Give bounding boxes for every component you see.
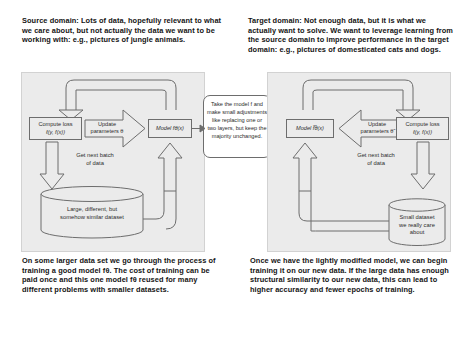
source-next-batch-arrow <box>40 142 64 190</box>
target-compute-loss-box: Compute loss ℓ(y, f(x)) <box>396 117 449 140</box>
target-dataset-cylinder: Small dataset we really care about <box>388 198 446 246</box>
source-next-batch-label: Get next batch of data <box>64 152 126 167</box>
target-dataset-label: Small dataset we really care about <box>390 214 444 237</box>
target-update-label-2: parameters θ̃ <box>361 128 394 134</box>
target-update-label-1: Update <box>368 121 386 127</box>
source-domain-footer: On some larger data set we go through th… <box>22 256 226 294</box>
source-to-callout-arrow <box>192 124 206 133</box>
target-update-parameters-arrow: Update parameters θ̃ <box>338 110 399 147</box>
source-dataset-label: Large, different, but somehow similar da… <box>46 206 138 221</box>
target-model-label: Model f̃θ̃(x) <box>296 125 324 132</box>
source-dataset-to-model-arrow <box>158 143 182 191</box>
source-loss-label-2: ℓ(y, f(x)) <box>46 129 65 136</box>
source-update-label-2: parameters θ <box>91 128 124 134</box>
source-dataset-cylinder: Large, different, but somehow similar da… <box>40 186 144 238</box>
diagram-canvas: Source domain: Lots of data, hopefully r… <box>0 0 463 338</box>
source-compute-loss-box: Compute loss ℓ(y, f(x)) <box>29 117 82 140</box>
source-domain-caption: Source domain: Lots of data, hopefully r… <box>22 16 222 45</box>
source-dataset-connector <box>158 189 194 223</box>
source-model-label: Model fθ(x) <box>156 125 184 132</box>
target-model-box: Model f̃θ̃(x) <box>286 119 334 138</box>
target-loss-label-1: Compute loss <box>405 121 439 128</box>
target-next-batch-label: Get next batch of data <box>345 152 407 167</box>
target-domain-caption: Target domain: Not enough data, but it i… <box>248 16 456 54</box>
target-domain-footer: Once we have the lightly modified model,… <box>250 256 456 294</box>
source-update-label-1: Update <box>98 121 116 127</box>
source-model-box: Model fθ(x) <box>148 119 192 138</box>
target-dataset-to-model-arrow <box>293 143 317 191</box>
source-update-parameters-arrow: Update parameters θ <box>85 110 146 147</box>
source-loss-label-1: Compute loss <box>38 121 72 128</box>
target-loss-label-2: ℓ(y, f(x)) <box>413 129 432 136</box>
callout-text: Take the model f and make small adjustme… <box>207 101 267 139</box>
model-transfer-callout: Take the model f and make small adjustme… <box>203 95 271 158</box>
target-dataset-connector <box>281 189 401 229</box>
target-next-batch-arrow <box>411 142 435 190</box>
